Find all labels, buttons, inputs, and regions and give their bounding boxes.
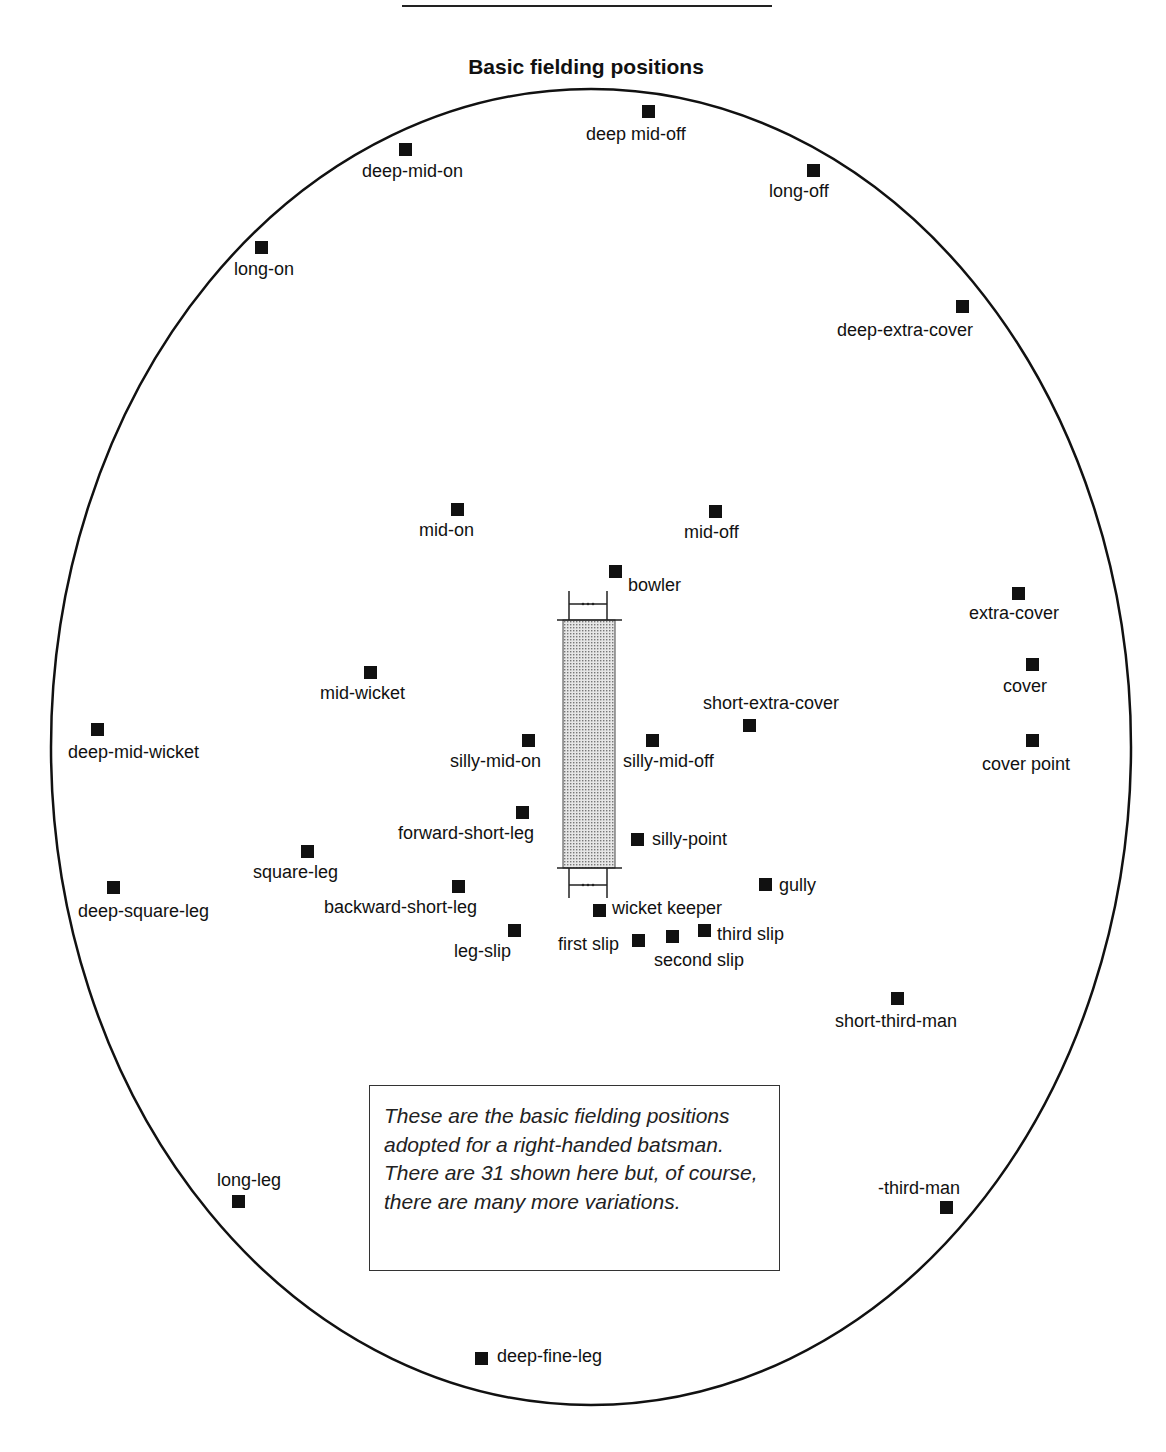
position-label: silly-mid-on <box>450 751 541 771</box>
position-label: short-extra-cover <box>703 693 839 713</box>
fielder-marker-icon <box>516 806 529 819</box>
fielder-marker-icon <box>940 1201 953 1214</box>
fielder-marker-icon <box>956 300 969 313</box>
position-label: third slip <box>717 924 784 944</box>
position-label: deep-mid-on <box>362 161 463 181</box>
position-label: square-leg <box>253 862 338 882</box>
position-label: long-off <box>769 181 829 201</box>
position-label: mid-wicket <box>320 683 405 703</box>
position-label: -third-man <box>878 1178 960 1198</box>
position-label: deep-mid-wicket <box>68 742 199 762</box>
fielder-marker-icon <box>759 878 772 891</box>
fielder-marker-icon <box>666 930 679 943</box>
fielder-marker-icon <box>452 880 465 893</box>
fielder-marker-icon <box>508 924 521 937</box>
pitch <box>557 591 622 898</box>
fielder-marker-icon <box>698 924 711 937</box>
fielder-marker-icon <box>522 734 535 747</box>
fielder-marker-icon <box>1026 658 1039 671</box>
position-label: bowler <box>628 575 681 595</box>
fielder-marker-icon <box>631 833 644 846</box>
position-label: mid-on <box>419 520 474 540</box>
fielder-marker-icon <box>646 734 659 747</box>
position-label: leg-slip <box>454 941 511 961</box>
position-label: cover point <box>982 754 1070 774</box>
fielder-marker-icon <box>232 1195 245 1208</box>
fielder-marker-icon <box>1026 734 1039 747</box>
fielder-marker-icon <box>891 992 904 1005</box>
fielder-marker-icon <box>609 565 622 578</box>
position-label: extra-cover <box>969 603 1059 623</box>
position-label: backward-short-leg <box>324 897 477 917</box>
position-label: forward-short-leg <box>398 823 534 843</box>
position-label: deep mid-off <box>586 124 686 144</box>
fielder-marker-icon <box>642 105 655 118</box>
fielder-marker-icon <box>107 881 120 894</box>
position-label: silly-mid-off <box>623 751 714 771</box>
position-label: deep-square-leg <box>78 901 209 921</box>
position-label: first slip <box>558 934 619 954</box>
position-label: cover <box>1003 676 1047 696</box>
caption-note: These are the basic fielding positions a… <box>369 1085 780 1271</box>
fielder-marker-icon <box>475 1352 488 1365</box>
position-label: short-third-man <box>835 1011 957 1031</box>
fielder-marker-icon <box>451 503 464 516</box>
position-label: silly-point <box>652 829 727 849</box>
position-label: second slip <box>654 950 744 970</box>
position-label: wicket keeper <box>612 898 722 918</box>
position-label: deep-fine-leg <box>497 1346 602 1366</box>
fielder-marker-icon <box>632 934 645 947</box>
fielder-marker-icon <box>364 666 377 679</box>
fielder-marker-icon <box>1012 587 1025 600</box>
position-label: long-on <box>234 259 294 279</box>
fielder-marker-icon <box>399 143 412 156</box>
fielder-marker-icon <box>301 845 314 858</box>
fielder-marker-icon <box>743 719 756 732</box>
position-label: long-leg <box>217 1170 281 1190</box>
fielder-marker-icon <box>709 505 722 518</box>
fielder-marker-icon <box>255 241 268 254</box>
position-label: deep-extra-cover <box>837 320 973 340</box>
fielder-marker-icon <box>593 904 606 917</box>
position-label: mid-off <box>684 522 739 542</box>
position-label: gully <box>779 875 816 895</box>
fielder-marker-icon <box>91 723 104 736</box>
fielder-marker-icon <box>807 164 820 177</box>
